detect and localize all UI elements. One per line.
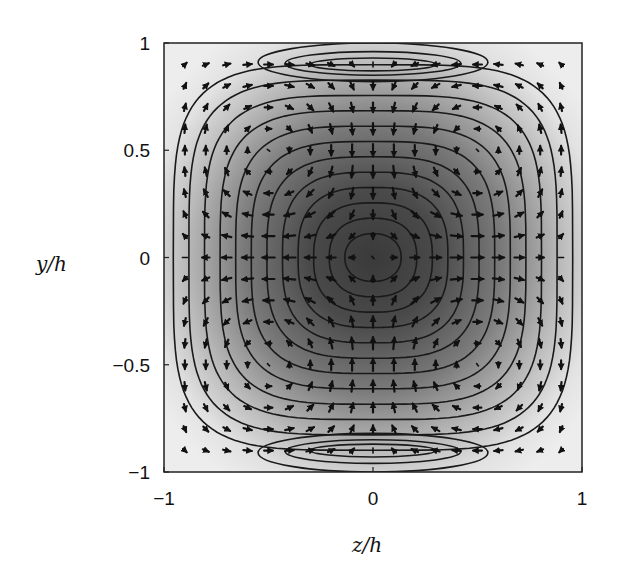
velocity-arrow xyxy=(242,236,253,237)
velocity-arrow xyxy=(285,64,294,65)
velocity-arrow xyxy=(393,123,394,134)
y-axis-label: y/h xyxy=(35,252,67,276)
velocity-arrow xyxy=(185,382,186,390)
velocity-arrow xyxy=(561,339,562,348)
velocity-arrow xyxy=(452,64,461,65)
velocity-arrow xyxy=(494,64,502,65)
velocity-arrow xyxy=(561,382,562,390)
velocity-arrow xyxy=(561,125,562,133)
velocity-arrow xyxy=(494,450,502,451)
velocity-arrow xyxy=(352,166,353,178)
x-tick-label: 1 xyxy=(577,488,588,509)
velocity-arrow xyxy=(393,338,394,350)
velocity-arrow xyxy=(352,381,353,392)
velocity-arrow xyxy=(393,166,394,178)
velocity-arrow xyxy=(284,235,296,236)
y-tick-label: 0 xyxy=(139,248,150,269)
y-axis: −1−0.500.51 y/h xyxy=(35,33,169,483)
velocity-arrow xyxy=(184,167,185,176)
velocity-arrow xyxy=(184,339,185,348)
velocity-arrow xyxy=(393,381,394,392)
x-tick-label: 0 xyxy=(368,488,379,509)
velocity-arrow xyxy=(352,123,353,134)
velocity-arrow xyxy=(561,167,562,176)
velocity-arrow xyxy=(243,64,251,65)
velocity-arrow xyxy=(493,278,504,279)
velocity-arrow xyxy=(452,450,461,451)
velocity-arrow xyxy=(451,235,463,236)
velocity-arrow xyxy=(285,450,294,451)
x-tick-label: −1 xyxy=(153,488,175,509)
velocity-arrow xyxy=(185,125,186,133)
y-tick-label: −1 xyxy=(128,462,150,483)
velocity-arrow xyxy=(284,278,296,279)
x-axis-label: z/h xyxy=(351,533,382,557)
velocity-arrow xyxy=(451,278,463,279)
x-axis: −101 z/h xyxy=(153,467,587,557)
y-tick-label: 1 xyxy=(139,33,150,54)
velocity-arrow xyxy=(493,236,504,237)
velocity-arrow xyxy=(243,450,251,451)
velocity-arrow xyxy=(352,338,353,350)
velocity-arrow xyxy=(242,278,253,279)
y-tick-label: 0.5 xyxy=(124,140,150,161)
y-tick-label: −0.5 xyxy=(112,355,150,376)
plot-area xyxy=(164,43,582,472)
contour-quiver-chart: −1−0.500.51 y/h −101 z/h xyxy=(0,0,617,584)
